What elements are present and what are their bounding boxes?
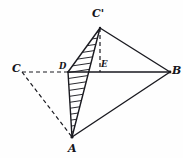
vertex-dot-Cp: [99, 27, 101, 29]
hatched-section-ADCp: [45, 22, 125, 142]
figure-canvas: [0, 0, 183, 158]
vertex-dot-B: [169, 71, 172, 74]
vertex-label-D: D: [59, 62, 66, 71]
vertex-label-C: C: [12, 63, 21, 74]
vertex-label-B: B: [172, 65, 181, 76]
vertex-label-C-prime: C': [92, 8, 104, 19]
edge-Cp-B: [100, 28, 170, 72]
edge-C-A: [22, 72, 72, 137]
vertex-label-A: A: [68, 143, 77, 154]
section-hatching: [45, 22, 125, 142]
geometry-figure: A B C C' D E: [0, 0, 183, 158]
vertex-label-E: E: [101, 60, 107, 69]
vertex-dot-A: [70, 135, 73, 138]
